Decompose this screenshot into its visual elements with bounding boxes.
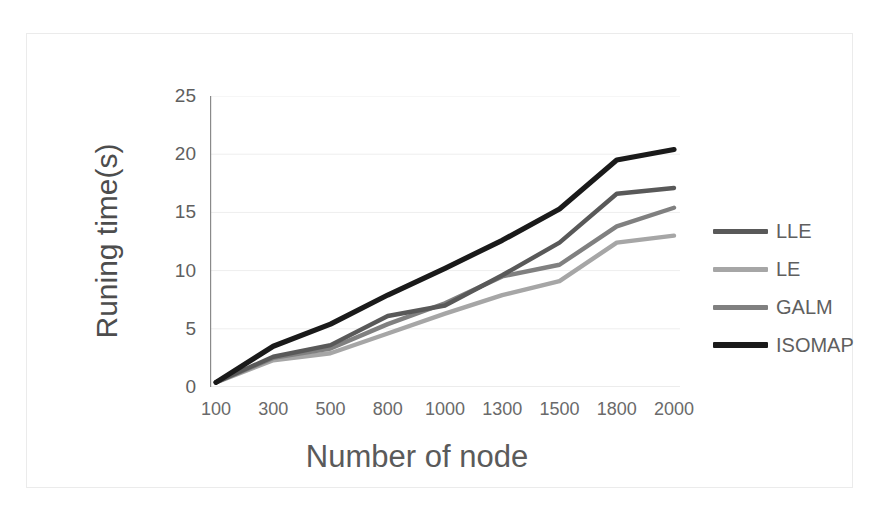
x-axis-tick-label: 1800 — [587, 400, 647, 418]
y-axis-tick-label: 0 — [150, 377, 196, 396]
legend-swatch-galm — [713, 305, 768, 310]
legend-label: GALM — [776, 296, 833, 319]
legend-swatch-isomap — [713, 342, 768, 348]
y-axis-title: Runing time(s) — [90, 101, 124, 381]
x-axis-tick-label: 1000 — [415, 400, 475, 418]
legend-swatch-le — [713, 267, 768, 272]
y-axis-line — [210, 96, 211, 387]
legend-item-isomap[interactable]: ISOMAP — [713, 326, 878, 364]
chart-legend: LLELEGALMISOMAP — [713, 212, 878, 364]
x-axis-tick-label: 1300 — [472, 400, 532, 418]
series-line-lle — [216, 188, 674, 382]
chart-frame: Runing time(s) 0510152025 10030050080010… — [26, 33, 853, 488]
legend-item-galm[interactable]: GALM — [713, 288, 878, 326]
y-axis-tick-label: 5 — [150, 319, 196, 338]
x-axis-tick-label: 800 — [358, 400, 418, 418]
y-axis-tick-label: 10 — [150, 261, 196, 280]
plot-area — [210, 96, 680, 387]
chart-page: Runing time(s) 0510152025 10030050080010… — [0, 0, 879, 526]
legend-swatch-lle — [713, 229, 768, 234]
legend-item-le[interactable]: LE — [713, 250, 878, 288]
legend-label: LLE — [776, 220, 812, 243]
x-axis-tick-label: 2000 — [644, 400, 704, 418]
y-axis-tick-label: 20 — [150, 144, 196, 163]
x-axis-title: Number of node — [187, 439, 647, 475]
x-axis-tick-label: 100 — [186, 400, 246, 418]
y-axis-tick-label: 25 — [150, 86, 196, 105]
series-line-le — [216, 236, 674, 383]
series-lines — [216, 150, 674, 383]
y-axis-tick-label: 15 — [150, 202, 196, 221]
series-line-isomap — [216, 150, 674, 383]
legend-label: ISOMAP — [776, 334, 854, 357]
legend-label: LE — [776, 258, 800, 281]
chart-svg — [210, 96, 680, 387]
legend-item-lle[interactable]: LLE — [713, 212, 878, 250]
x-axis-tick-label: 300 — [243, 400, 303, 418]
x-axis-tick-label: 500 — [301, 400, 361, 418]
x-axis-tick-label: 1500 — [530, 400, 590, 418]
